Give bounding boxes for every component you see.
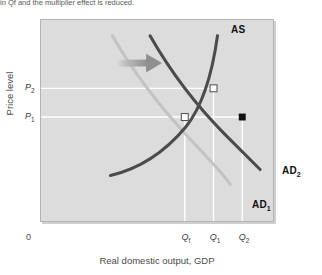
y-tick-p1: P1 <box>25 111 35 123</box>
marker-equilibrium-initial <box>181 114 188 121</box>
curve-label-as: AS <box>231 24 245 35</box>
x-tick-q1: Q1 <box>207 232 223 244</box>
curve-label-ad1: AD1 <box>252 199 271 212</box>
guide-lines <box>41 88 242 221</box>
y-axis-label: Price level <box>4 49 15 139</box>
curve-label-ad2: AD2 <box>282 165 301 178</box>
figure-caption: in Qf and the multiplier effect is reduc… <box>0 0 322 9</box>
x-tick-q2: Q2 <box>236 232 252 244</box>
x-axis-label: Real domestic output, GDP <box>40 255 274 266</box>
marker-equilibrium-new <box>210 85 217 92</box>
y-tick-p2: P2 <box>25 82 35 94</box>
chart-plot-area <box>40 19 274 222</box>
x-tick-qf: Qf <box>178 232 194 244</box>
marker-full-multiplier-point <box>239 114 246 121</box>
chart-svg <box>41 20 273 221</box>
origin-label: 0 <box>26 232 31 242</box>
curve-ad2 <box>150 36 260 170</box>
